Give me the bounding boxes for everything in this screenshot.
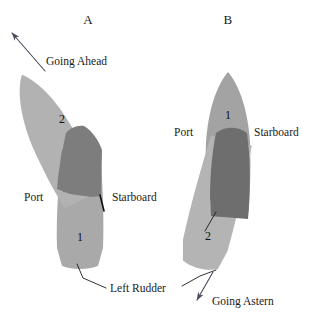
panel-b-title: B [224,12,233,27]
going-ahead-label: Going Ahead [46,55,107,68]
panel-a-starboard-label: Starboard [112,191,157,203]
going-astern-label: Going Astern [212,295,274,308]
left-rudder-label: Left Rudder [110,282,166,294]
panel-b-port-label: Port [174,126,194,138]
rudder-diagram-svg: A Going Ahead 2 1 Port Starboard Left Ru… [0,0,320,316]
panel-b-section-1-number: 1 [225,108,231,122]
panel-b-section-2-number: 2 [205,229,211,243]
panel-a-port-label: Port [24,191,44,203]
panel-a-title: A [83,12,93,27]
panel-b-starboard-label: Starboard [254,126,299,138]
panel-a-section-2-number: 2 [59,112,65,126]
figure-root: A Going Ahead 2 1 Port Starboard Left Ru… [0,0,320,316]
panel-a-section-1-number: 1 [77,230,83,244]
